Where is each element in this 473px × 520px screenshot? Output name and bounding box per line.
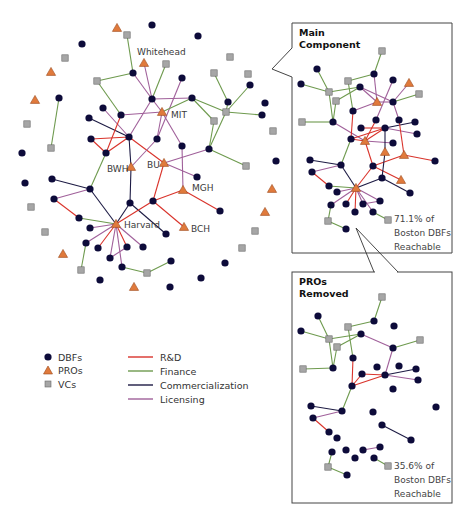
dbf-node <box>348 382 355 389</box>
vc-node <box>379 48 385 54</box>
institution-label: BWH <box>107 164 129 174</box>
finance-edge <box>214 73 228 102</box>
dbf-node <box>139 243 146 250</box>
dbf-node <box>389 385 396 392</box>
legend-label-dbfs: DBFs <box>58 352 82 363</box>
vc-node <box>299 119 305 125</box>
dbf-node <box>193 173 200 180</box>
finance-edge <box>209 149 246 166</box>
finance-edge <box>79 218 116 224</box>
vc-node <box>326 336 332 342</box>
dbf-node <box>178 74 185 81</box>
inset-removed-note-line2: Boston DBFs <box>394 475 451 485</box>
pro-node <box>178 185 187 193</box>
dbf-node <box>342 225 349 232</box>
vc-node <box>385 217 391 223</box>
dbf-node <box>373 363 380 370</box>
network-figure: WhiteheadMITBWHBUMGHHarvardBCH Main Comp… <box>0 0 473 520</box>
dbf-node <box>337 161 344 168</box>
dbf-node <box>129 69 136 76</box>
dbf-node <box>370 70 377 77</box>
dbf-node <box>216 207 223 214</box>
vc-node <box>62 55 68 61</box>
dbf-node <box>75 214 82 221</box>
dbf-node <box>117 111 124 118</box>
legend-item-dbfs: DBFs <box>44 352 82 363</box>
dbf-node <box>106 254 113 261</box>
finance-edge <box>122 267 147 273</box>
dbf-node <box>342 200 349 207</box>
vc-node <box>144 270 150 276</box>
licensing-edge <box>129 99 152 137</box>
dbf-node <box>325 428 332 435</box>
dbf-node <box>307 402 314 409</box>
dbf-node <box>167 257 174 264</box>
legend-label-vcs: VCs <box>58 379 76 390</box>
dbf-node <box>149 197 156 204</box>
dbf-node <box>18 149 25 156</box>
inset-main-note-line1: 71.1% of <box>394 214 435 224</box>
institution-label: Harvard <box>124 220 160 230</box>
finance-edge <box>147 261 171 273</box>
dbf-node <box>85 114 92 121</box>
finance-edge <box>97 73 133 81</box>
vc-node <box>28 204 34 210</box>
dbf-node <box>261 99 268 106</box>
vc-node <box>417 337 423 343</box>
dbf-node <box>351 454 358 461</box>
dbf-node <box>162 230 169 237</box>
dbf-node <box>369 208 376 215</box>
licensing-edge <box>157 112 162 139</box>
commercialization-edge <box>130 167 131 203</box>
dbf-node <box>406 189 413 196</box>
dbf-node <box>78 40 85 47</box>
dbf-node <box>328 448 335 455</box>
vc-node <box>211 118 217 124</box>
dbf-node <box>297 80 304 87</box>
dbf-node <box>246 81 253 88</box>
dbf-node <box>329 364 336 371</box>
dbf-node <box>431 157 438 164</box>
dbf-node <box>359 446 366 453</box>
legend-label-pros: PROs <box>58 365 83 376</box>
vc-node <box>326 89 332 95</box>
legend-item-finance: Finance <box>128 366 196 377</box>
vc-node <box>416 91 422 97</box>
vc-node <box>223 109 229 115</box>
vc-node <box>94 78 100 84</box>
legend-item-pros: PROs <box>44 365 83 376</box>
vc-node <box>252 228 258 234</box>
inset-pros-removed: PROs Removed 35.6% of Boston DBFs Reacha… <box>292 228 452 503</box>
pro-node <box>112 23 121 31</box>
dbf-node <box>118 263 125 270</box>
dbf-node <box>333 434 340 441</box>
vc-node <box>78 267 84 273</box>
dbf-node <box>369 408 376 415</box>
dbf-node <box>96 276 103 283</box>
dbf-node <box>376 443 383 450</box>
dbf-node <box>389 76 396 83</box>
dbf-node <box>389 344 396 351</box>
pro-node <box>30 95 39 103</box>
dbf-node <box>48 175 55 182</box>
dbf-node <box>381 371 388 378</box>
dbf-node <box>205 145 212 152</box>
dbf-node <box>343 471 350 478</box>
dbf-node <box>55 94 62 101</box>
dbf-node <box>126 199 133 206</box>
pro-node <box>129 282 138 290</box>
legend-label-finance: Finance <box>160 366 196 377</box>
vc-node <box>345 78 351 84</box>
dbf-node <box>314 312 321 319</box>
dbf-node <box>381 124 388 131</box>
inset-removed-title-line1: PROs <box>299 276 327 287</box>
dbf-node <box>413 130 420 137</box>
dbf-node <box>94 244 101 251</box>
inset-main-component: Main Component 71.1% of Boston DBFs Reac… <box>272 23 452 253</box>
dbf-node <box>390 322 397 329</box>
dbf-node <box>87 135 94 142</box>
dbf-node <box>306 156 313 163</box>
dbf-node <box>389 139 396 146</box>
institution-label: MGH <box>192 183 214 193</box>
legend-item-rd: R&D <box>128 352 181 363</box>
